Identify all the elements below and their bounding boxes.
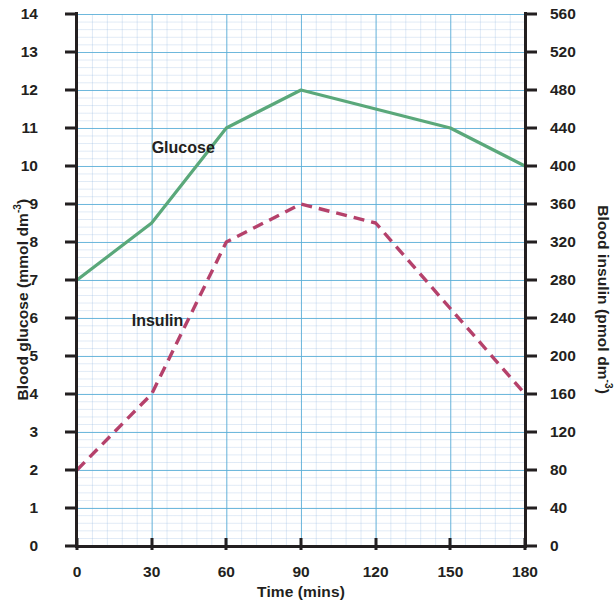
y-axis-right-tick-label: 440: [550, 119, 576, 137]
x-axis-tick-mark: [300, 538, 303, 550]
insulin-line: [77, 204, 525, 470]
plot-area: [77, 14, 525, 546]
y-axis-right-tick-mark: [525, 431, 537, 434]
x-axis-tick-label: 30: [143, 563, 160, 581]
y-axis-right-title: Blood insulin (pmol dm-3): [594, 150, 613, 450]
y-axis-right-title-superscript: -3: [603, 380, 614, 389]
y-axis-left-tick-label: 8: [29, 233, 38, 251]
y-axis-right-tick-label: 400: [550, 157, 576, 175]
x-axis-tick-label: 90: [292, 563, 309, 581]
y-axis-left-tick-mark: [65, 13, 77, 16]
x-axis-tick-labels: 0306090120150180: [0, 553, 602, 583]
x-axis-tick-label: 60: [218, 563, 235, 581]
y-axis-right-tick-mark: [525, 279, 537, 282]
insulin-series-label: Insulin: [132, 312, 184, 330]
x-axis-tick-mark: [449, 538, 452, 550]
x-axis-tick-label: 0: [73, 563, 82, 581]
y-axis-left-tick-label: 10: [21, 157, 38, 175]
y-axis-left-tick-label: 2: [29, 461, 38, 479]
y-axis-right-tick-label: 160: [550, 385, 576, 403]
y-axis-left-tick-mark: [65, 355, 77, 358]
y-axis-right-tick-mark: [525, 469, 537, 472]
y-axis-left-tick-mark: [65, 203, 77, 206]
y-axis-left-tick-labels: 01234567891011121314: [0, 0, 70, 609]
y-axis-right-tick-mark: [525, 89, 537, 92]
x-axis-tick-label: 120: [363, 563, 389, 581]
y-axis-right-tick-labels: 0408012016020024028032036040044048052056…: [536, 0, 596, 609]
y-axis-right-tick-label: 520: [550, 43, 576, 61]
y-axis-right-tick-label: 480: [550, 81, 576, 99]
y-axis-left-tick-mark: [65, 241, 77, 244]
y-axis-left-tick-label: 7: [29, 271, 38, 289]
y-axis-right-tick-label: 320: [550, 233, 576, 251]
y-axis-left-tick-mark: [65, 431, 77, 434]
x-axis-tick-mark: [150, 538, 153, 550]
x-axis-title: Time (mins): [0, 583, 602, 601]
y-axis-right-tick-mark: [525, 51, 537, 54]
y-axis-left-tick-label: 14: [21, 5, 38, 23]
y-axis-right-tick-label: 240: [550, 309, 576, 327]
x-axis-tick-label: 150: [437, 563, 463, 581]
x-axis-tick-mark: [225, 538, 228, 550]
y-axis-left-tick-mark: [65, 89, 77, 92]
y-axis-right-tick-label: 560: [550, 5, 576, 23]
y-axis-left-tick-mark: [65, 165, 77, 168]
y-axis-left-tick-label: 9: [29, 195, 38, 213]
y-axis-left-tick-label: 5: [29, 347, 38, 365]
y-axis-right-tick-mark: [525, 241, 537, 244]
glucose-line: [77, 90, 525, 280]
y-axis-left-tick-label: 6: [29, 309, 38, 327]
y-axis-left-tick-label: 1: [29, 499, 38, 517]
series-lines: [77, 14, 525, 546]
y-axis-right-title-tail: ): [595, 389, 612, 394]
y-axis-right-tick-label: 200: [550, 347, 576, 365]
y-axis-left-tick-mark: [65, 51, 77, 54]
y-axis-right-tick-label: 40: [550, 499, 567, 517]
y-axis-right-tick-mark: [525, 355, 537, 358]
y-axis-left-tick-label: 12: [21, 81, 38, 99]
y-axis-left-tick-mark: [65, 279, 77, 282]
y-axis-right-tick-label: 360: [550, 195, 576, 213]
y-axis-right-tick-mark: [525, 393, 537, 396]
y-axis-left-tick-label: 4: [29, 385, 38, 403]
y-axis-left-tick-mark: [65, 393, 77, 396]
y-axis-left-tick-label: 3: [29, 423, 38, 441]
y-axis-right-tick-mark: [525, 165, 537, 168]
x-axis-tick-mark: [524, 538, 527, 550]
y-axis-right-tick-label: 120: [550, 423, 576, 441]
y-axis-left-tick-mark: [65, 317, 77, 320]
x-axis-tick-mark: [374, 538, 377, 550]
y-axis-left-tick-label: 13: [21, 43, 38, 61]
y-axis-right-tick-mark: [525, 127, 537, 130]
y-axis-right-title-text: Blood insulin (pmol dm: [595, 205, 612, 379]
y-axis-right-tick-label: 80: [550, 461, 567, 479]
y-axis-right-tick-mark: [525, 507, 537, 510]
y-axis-left-tick-label: 11: [22, 119, 38, 137]
y-axis-left-tick-mark: [65, 127, 77, 130]
y-axis-right-tick-mark: [525, 13, 537, 16]
y-axis-left-tick-mark: [65, 469, 77, 472]
y-axis-left-tick-mark: [65, 507, 77, 510]
x-axis-tick-label: 180: [512, 563, 538, 581]
y-axis-right-tick-mark: [525, 203, 537, 206]
glucose-series-label: Glucose: [152, 139, 215, 157]
y-axis-right-tick-label: 280: [550, 271, 576, 289]
y-axis-right-tick-mark: [525, 317, 537, 320]
y-axis-right-tick-mark: [525, 545, 537, 548]
x-axis-tick-mark: [76, 538, 79, 550]
